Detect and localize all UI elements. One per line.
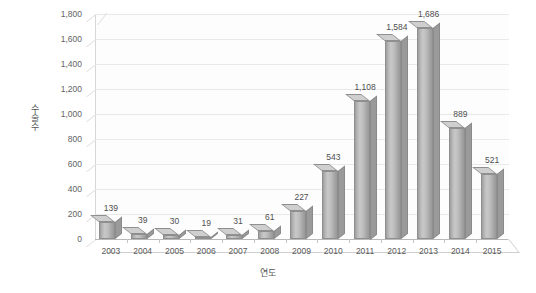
x-axis-tick-mark xyxy=(286,239,287,243)
bar-value-label: 139 xyxy=(104,203,118,213)
bar-value-label: 1,584 xyxy=(386,22,407,32)
bar-value-label: 31 xyxy=(233,216,242,226)
bar xyxy=(131,227,147,239)
bar-value-label: 889 xyxy=(453,109,467,119)
x-axis-tick-label: 2013 xyxy=(419,246,438,256)
bar-side-face xyxy=(242,230,249,239)
bar-value-label: 30 xyxy=(170,216,179,226)
x-axis-tick-mark xyxy=(127,239,128,243)
bar-top-face xyxy=(186,230,211,237)
x-axis-tick-mark xyxy=(476,239,477,243)
bar xyxy=(99,215,115,239)
y-axis-tick-labels: 02004006008001,0001,2001,4001,6001,800 xyxy=(44,0,86,293)
y-axis-title: 수술수 xyxy=(24,104,40,131)
bar-side-face xyxy=(211,231,218,239)
bar-side-face xyxy=(401,36,408,239)
bar-front-face xyxy=(322,171,338,239)
x-axis-tick-mark xyxy=(190,239,191,243)
bar xyxy=(322,164,338,239)
x-axis-line xyxy=(95,239,508,240)
bar-front-face xyxy=(163,235,179,239)
x-axis-tick-label: 2007 xyxy=(228,246,247,256)
bar-side-face xyxy=(274,226,281,239)
y-axis-tick-label: 1,000 xyxy=(61,109,82,119)
bar-top-face xyxy=(440,121,465,128)
bar-side-face xyxy=(338,166,345,239)
bar-front-face xyxy=(99,222,115,239)
bar-side-face xyxy=(370,95,377,239)
bar-top-face xyxy=(281,204,306,211)
bar xyxy=(449,121,465,239)
bar-side-face xyxy=(179,230,186,239)
bar-top-face xyxy=(154,228,179,235)
y-axis-tick-label: 1,600 xyxy=(61,34,82,44)
y-axis-tick-label: 400 xyxy=(68,184,82,194)
bar xyxy=(417,21,433,239)
y-axis-tick-label: 1,800 xyxy=(61,9,82,19)
bar-top-face xyxy=(376,34,401,41)
bar xyxy=(481,167,497,239)
bar xyxy=(354,94,370,240)
bar-top-face xyxy=(345,94,370,101)
bar-top-face xyxy=(90,215,115,222)
bar-value-label: 19 xyxy=(201,218,210,228)
x-axis-tick-mark xyxy=(381,239,382,243)
x-axis-tick-label: 2008 xyxy=(260,246,279,256)
x-axis-tick-mark xyxy=(254,239,255,243)
bar-front-face xyxy=(226,235,242,239)
bar-front-face xyxy=(258,231,274,239)
x-axis-tick-mark xyxy=(349,239,350,243)
x-axis-title: 연도 xyxy=(0,266,536,279)
x-axis-tick-label: 2012 xyxy=(387,246,406,256)
bar-chart: 수술수 02004006008001,0001,2001,4001,6001,8… xyxy=(0,0,536,293)
bar-value-label: 1,686 xyxy=(418,9,439,19)
bar xyxy=(195,230,211,239)
bar xyxy=(226,228,242,239)
bar-front-face xyxy=(131,234,147,239)
bar-value-label: 39 xyxy=(138,215,147,225)
bar xyxy=(258,224,274,239)
y-axis-tick-label: 0 xyxy=(77,234,82,244)
x-axis-tick-label: 2004 xyxy=(133,246,152,256)
x-axis-tick-label: 2005 xyxy=(165,246,184,256)
bar-top-face xyxy=(217,228,242,235)
x-axis-tick-mark xyxy=(159,239,160,243)
bar xyxy=(385,34,401,239)
x-axis-tick-mark xyxy=(413,239,414,243)
x-axis-tick-mark xyxy=(222,239,223,243)
bar-side-face xyxy=(306,205,313,239)
x-axis-tick-label: 2003 xyxy=(101,246,120,256)
bar-side-face xyxy=(115,216,122,239)
x-axis-tick-label: 2009 xyxy=(292,246,311,256)
bar-top-face xyxy=(408,21,433,28)
y-axis-tick-label: 1,400 xyxy=(61,59,82,69)
bar xyxy=(290,204,306,239)
y-axis-tick-label: 600 xyxy=(68,159,82,169)
bar-top-face xyxy=(313,164,338,171)
bar-front-face xyxy=(417,28,433,239)
bar xyxy=(163,228,179,239)
bar-value-label: 227 xyxy=(294,192,308,202)
bar-front-face xyxy=(449,128,465,239)
y-axis-tick-label: 800 xyxy=(68,134,82,144)
bar-side-face xyxy=(433,23,440,239)
bar-value-label: 1,108 xyxy=(354,82,375,92)
y-axis-tick-label: 1,200 xyxy=(61,84,82,94)
bar-value-label: 521 xyxy=(485,155,499,165)
bar-value-label: 61 xyxy=(265,212,274,222)
x-axis-tick-mark xyxy=(444,239,445,243)
y-axis-tick-label: 200 xyxy=(68,209,82,219)
x-axis-tick-label: 2006 xyxy=(197,246,216,256)
bar-side-face xyxy=(465,122,472,239)
bar-value-label: 543 xyxy=(326,152,340,162)
x-axis-tick-mark xyxy=(317,239,318,243)
bar-side-face xyxy=(147,229,154,239)
bar-front-face xyxy=(354,101,370,240)
bar-front-face xyxy=(481,174,497,239)
x-axis-tick-label: 2010 xyxy=(324,246,343,256)
x-axis-tick-label: 2011 xyxy=(356,246,374,256)
bar-top-face xyxy=(122,227,147,234)
x-axis-tick-label: 2014 xyxy=(451,246,470,256)
bars-layer xyxy=(95,14,508,239)
bar-side-face xyxy=(497,168,504,239)
